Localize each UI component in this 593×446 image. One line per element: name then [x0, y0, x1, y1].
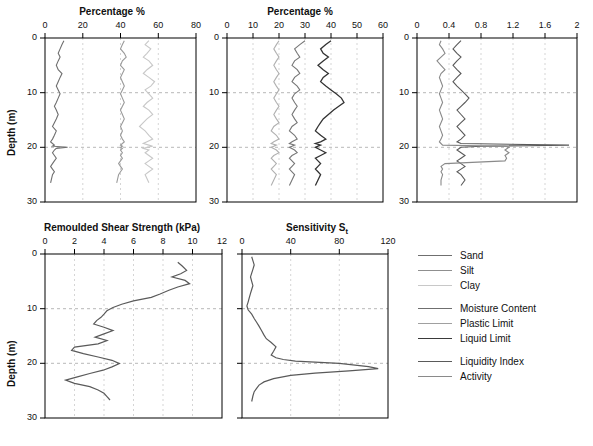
p1-ytick-2: 20	[17, 141, 37, 151]
legend-item-silt: Silt	[418, 263, 593, 278]
p2-xtick-3: 30	[295, 20, 315, 30]
legend-label-activity: Activity	[460, 371, 492, 382]
legend-item-moisture-content: Moisture Content	[418, 301, 593, 316]
p2-xtick-1: 10	[243, 20, 263, 30]
panel-grain-size: Percentage % Depth (m)	[0, 6, 205, 216]
legend-swatch-clay	[418, 285, 452, 286]
p4-xtick-3: 6	[124, 236, 144, 246]
panel-sensitivity-title-text: Sensitivity St	[286, 222, 348, 233]
p2-ytick-2: 20	[199, 141, 219, 151]
legend-item-sand: Sand	[418, 248, 593, 263]
p3-xtick-1: 0.4	[439, 20, 459, 30]
p3-xtick-5: 2	[567, 20, 587, 30]
panel-sensitivity: Sensitivity St 0 40 80 120	[232, 222, 397, 438]
legend-label-liquidity-index: Liquidity Index	[460, 356, 524, 367]
legend-spacer-1	[418, 293, 593, 301]
legend-item-plastic-limit: Plastic Limit	[418, 316, 593, 331]
panel-remoulded-shear: Remoulded Shear Strength (kPa) Depth (m)	[0, 222, 232, 438]
p3-ytick-1: 10	[389, 87, 409, 97]
p5-xtick-2: 80	[329, 236, 349, 246]
legend-label-clay: Clay	[460, 280, 480, 291]
p4-xtick-1: 2	[65, 236, 85, 246]
p4-ytick-2: 20	[17, 357, 37, 367]
p2-ytick-0: 0	[199, 32, 219, 42]
legend-label-plastic-limit: Plastic Limit	[460, 318, 513, 329]
legend-item-clay: Clay	[418, 278, 593, 293]
panel-grain-size-ylabel: Depth (m)	[6, 109, 17, 156]
p5-xtick-0: 0	[232, 236, 252, 246]
panel-grain-size-title: Percentage %	[52, 6, 172, 17]
p1-xtick-4: 80	[186, 20, 206, 30]
legend-swatch-liquidity-index	[418, 361, 452, 362]
panel-liquidity-activity-plot	[395, 6, 593, 216]
p4-ytick-3: 30	[17, 412, 37, 422]
p1-xtick-2: 40	[111, 20, 131, 30]
panel-sensitivity-title: Sensitivity St	[252, 222, 382, 236]
legend-label-liquid-limit: Liquid Limit	[460, 333, 511, 344]
p2-xtick-4: 40	[321, 20, 341, 30]
panel-sensitivity-plot	[232, 222, 397, 438]
legend-label-moisture-content: Moisture Content	[460, 303, 536, 314]
legend-swatch-activity	[418, 376, 452, 377]
p5-xtick-1: 40	[281, 236, 301, 246]
panel-remoulded-shear-title: Remoulded Shear Strength (kPa)	[22, 222, 222, 233]
legend-swatch-liquid-limit	[418, 338, 452, 339]
p1-xtick-0: 0	[35, 20, 55, 30]
p4-xtick-2: 4	[94, 236, 114, 246]
p4-xtick-0: 0	[35, 236, 55, 246]
legend-swatch-moisture-content	[418, 308, 452, 309]
panel-atterberg-title: Percentage %	[240, 6, 360, 17]
p4-ytick-1: 10	[17, 303, 37, 313]
legend-item-activity: Activity	[418, 369, 593, 384]
p4-xtick-6: 12	[212, 236, 232, 246]
p3-ytick-3: 30	[389, 196, 409, 206]
legend-label-silt: Silt	[460, 265, 474, 276]
p1-xtick-1: 20	[73, 20, 93, 30]
p3-xtick-3: 1.2	[503, 20, 523, 30]
p4-xtick-5: 10	[183, 236, 203, 246]
p3-xtick-0: 0	[407, 20, 427, 30]
legend-label-sand: Sand	[460, 250, 483, 261]
panel-atterberg: Percentage %	[205, 6, 395, 216]
legend-swatch-plastic-limit	[418, 323, 452, 324]
p2-xtick-5: 50	[347, 20, 367, 30]
p2-xtick-2: 20	[269, 20, 289, 30]
legend-swatch-sand	[418, 255, 452, 256]
p2-ytick-3: 30	[199, 196, 219, 206]
p1-ytick-3: 30	[17, 196, 37, 206]
p1-xtick-3: 60	[148, 20, 168, 30]
panel-atterberg-plot	[205, 6, 395, 216]
legend-swatch-silt	[418, 270, 452, 271]
p3-ytick-0: 0	[389, 32, 409, 42]
p2-xtick-0: 0	[217, 20, 237, 30]
p3-xtick-2: 0.8	[471, 20, 491, 30]
p4-xtick-4: 8	[153, 236, 173, 246]
p4-ytick-0: 0	[17, 248, 37, 258]
p5-xtick-3: 120	[378, 236, 398, 246]
figure-legend: Sand Silt Clay Moisture Content Plastic …	[418, 248, 593, 384]
p1-ytick-0: 0	[17, 32, 37, 42]
legend-spacer-2	[418, 346, 593, 354]
p3-xtick-4: 1.6	[535, 20, 555, 30]
legend-item-liquidity-index: Liquidity Index	[418, 354, 593, 369]
legend-item-liquid-limit: Liquid Limit	[418, 331, 593, 346]
p1-ytick-1: 10	[17, 87, 37, 97]
p3-ytick-2: 20	[389, 141, 409, 151]
panel-remoulded-shear-ylabel: Depth (m)	[6, 340, 17, 387]
panel-liquidity-activity: 0 0.4 0.8 1.2 1.6 2 0 10 20 30	[395, 6, 593, 216]
p2-ytick-1: 10	[199, 87, 219, 97]
p2-xtick-6: 60	[373, 20, 393, 30]
